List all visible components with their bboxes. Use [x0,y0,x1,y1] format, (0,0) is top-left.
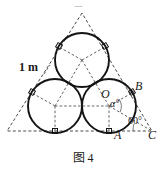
angle-60-label: 60° [128,116,142,126]
point-B-label: B [135,80,142,92]
angle-arc-alpha [119,99,121,112]
point-C-label: C [148,129,156,141]
side-length-label: 1 m [19,61,38,73]
angle-alpha-label: α° [110,99,119,109]
figure-page: 、。一、。、。 [0,0,166,169]
center-O-label: O [101,88,110,100]
point-A-label: A [114,129,121,141]
radii-top-circle [59,47,105,60]
length-leader-line [44,65,50,74]
radii-bottom-left-circle [32,93,55,133]
right-angle-markers [29,43,136,134]
tangent-point-dots [130,90,133,93]
figure-caption: 图 4 [0,148,166,166]
